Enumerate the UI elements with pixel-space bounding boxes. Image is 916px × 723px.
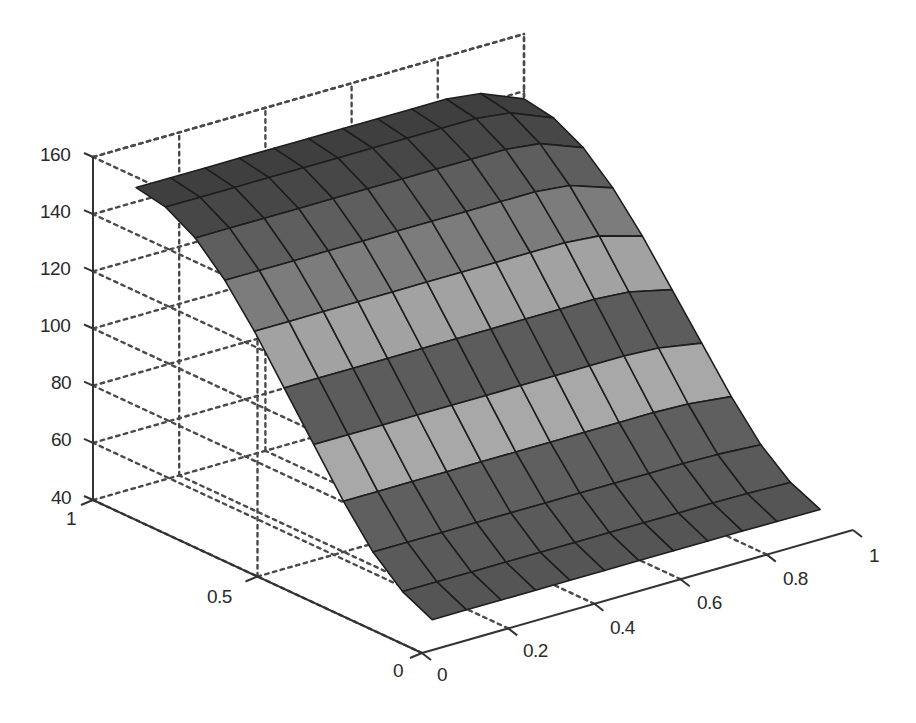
x-tick-label: 1 (869, 545, 879, 567)
y-tick-label: 1 (66, 508, 76, 530)
y-tick-label: 0 (393, 660, 403, 682)
x-tick-label: 0.4 (610, 617, 635, 639)
x-tick-label: 0 (437, 664, 447, 686)
x-tick-label: 0.8 (783, 568, 808, 590)
z-tick-label: 120 (40, 258, 70, 280)
z-tick-label: 80 (51, 372, 71, 394)
z-tick-label: 160 (40, 144, 70, 166)
z-tick-label: 60 (51, 429, 71, 451)
z-tick-label: 40 (51, 487, 71, 509)
x-tick-label: 0.6 (697, 592, 722, 614)
surface-mesh (136, 94, 820, 620)
x-tick-label: 0.2 (523, 640, 548, 662)
z-tick-label: 100 (40, 315, 70, 337)
z-tick-label: 140 (40, 201, 70, 223)
y-tick-label: 0.5 (207, 586, 232, 608)
surface-plot (0, 0, 916, 723)
